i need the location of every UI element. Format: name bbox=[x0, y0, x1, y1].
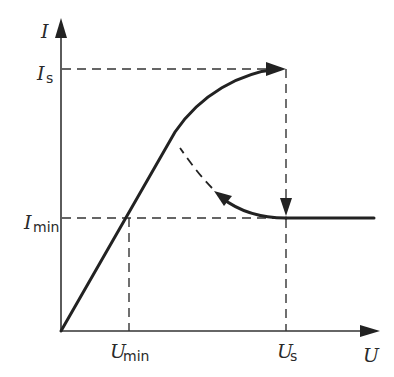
iu-characteristic-diagram: I U I s I min U min U s bbox=[0, 0, 394, 377]
us-label: U s bbox=[277, 340, 297, 364]
svg-text:s: s bbox=[290, 348, 297, 364]
svg-text:s: s bbox=[46, 70, 53, 86]
drop-arrow-icon bbox=[280, 198, 292, 216]
x-axis-label: U bbox=[363, 344, 380, 366]
svg-text:I: I bbox=[23, 211, 32, 233]
x-axis-arrow-icon bbox=[360, 325, 380, 337]
imin-label: I min bbox=[23, 211, 59, 235]
is-label: I s bbox=[36, 62, 53, 86]
x-axis bbox=[61, 325, 380, 337]
rising-branch-curve bbox=[61, 69, 280, 331]
return-branch-dashed bbox=[180, 148, 212, 188]
svg-text:min: min bbox=[33, 219, 59, 235]
y-axis-arrow-icon bbox=[55, 18, 67, 38]
guide-lines bbox=[62, 69, 286, 331]
y-axis bbox=[55, 18, 67, 331]
return-branch-solid bbox=[222, 198, 286, 218]
umin-label: U min bbox=[110, 340, 149, 364]
rising-arrow-icon bbox=[266, 62, 286, 76]
svg-text:min: min bbox=[123, 348, 149, 364]
y-axis-label: I bbox=[40, 20, 49, 42]
svg-text:I: I bbox=[36, 62, 45, 84]
